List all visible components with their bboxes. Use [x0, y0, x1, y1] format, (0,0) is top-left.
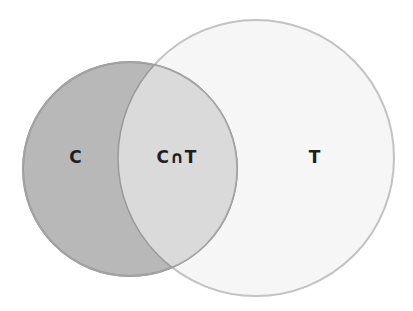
- set-t-label: T: [309, 147, 322, 167]
- venn-diagram: [0, 0, 413, 311]
- intersection-label: C∩T: [157, 147, 198, 167]
- set-c-label: C: [69, 147, 82, 167]
